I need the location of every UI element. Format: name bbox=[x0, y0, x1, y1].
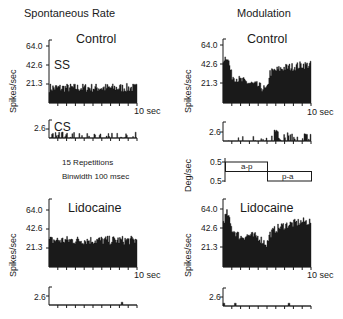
right-control-cs-histogram bbox=[223, 130, 311, 141]
left-lidocaine-ss-histogram bbox=[49, 236, 137, 267]
left-control-ss-histogram bbox=[49, 83, 137, 103]
histogram-canvas bbox=[0, 0, 343, 319]
right-lidocaine-ss-histogram bbox=[223, 210, 311, 267]
pa-segment bbox=[268, 172, 312, 182]
left-control-cs-histogram bbox=[49, 132, 137, 138]
ap-segment bbox=[226, 162, 268, 172]
right-control-ss-histogram bbox=[223, 57, 311, 103]
